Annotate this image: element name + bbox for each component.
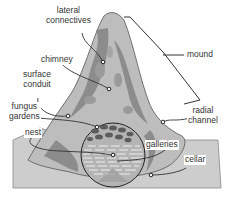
label-text: gardens — [9, 111, 40, 121]
label-text: radial — [192, 105, 213, 115]
label-cellar: cellar — [184, 155, 206, 165]
mound-illustration — [0, 0, 227, 199]
label-text: fungus — [12, 101, 38, 111]
label-chimney: chimney — [40, 55, 74, 65]
label-fungus-gardens: fungus gardens — [8, 102, 41, 121]
label-lateral-connectives: lateral connectives — [45, 6, 92, 25]
label-radial-channel: radial channel — [187, 106, 219, 125]
label-text: lateral — [57, 5, 80, 15]
label-galleries: galleries — [145, 140, 179, 150]
label-text: channel — [188, 115, 218, 125]
label-surface-conduit: surface conduit — [22, 70, 52, 89]
label-text: connectives — [46, 15, 91, 25]
termite-mound-diagram: lateral connectives chimney surface cond… — [0, 0, 227, 199]
label-nest: nest — [24, 128, 42, 138]
label-mound: mound — [186, 50, 214, 60]
label-text: surface — [23, 69, 51, 79]
label-text: conduit — [23, 79, 50, 89]
